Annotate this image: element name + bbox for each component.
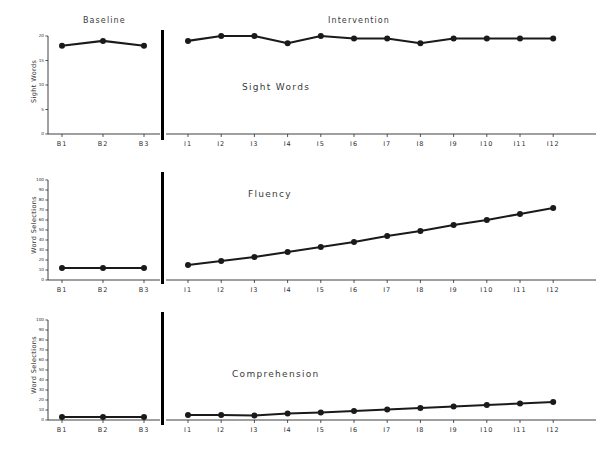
data-point-marker	[251, 413, 257, 419]
y-tick-label: 10	[22, 82, 44, 87]
series-line-intervention	[188, 208, 553, 265]
data-point-marker	[351, 408, 357, 414]
data-point-marker	[141, 265, 147, 271]
data-point-marker	[185, 38, 191, 44]
x-tick-label: I11	[504, 426, 536, 434]
data-point-marker	[285, 411, 291, 417]
y-axis-title: Sight Words	[30, 59, 38, 102]
x-tick-label: I3	[238, 286, 270, 294]
data-point-marker	[417, 405, 423, 411]
data-point-marker	[484, 217, 490, 223]
data-point-marker	[100, 38, 106, 44]
x-tick-label: B3	[128, 140, 160, 148]
chart-canvas	[0, 0, 606, 456]
x-tick-label: I7	[371, 286, 403, 294]
data-point-marker	[100, 265, 106, 271]
x-tick-label: I7	[371, 426, 403, 434]
data-point-marker	[100, 414, 106, 420]
x-tick-label: I12	[537, 426, 569, 434]
chart-canvas	[0, 0, 606, 456]
x-tick-label: I5	[305, 140, 337, 148]
y-tick-label: 10	[22, 267, 44, 272]
data-point-marker	[550, 205, 556, 211]
x-tick-label: I12	[537, 286, 569, 294]
x-tick-label: B3	[128, 286, 160, 294]
y-tick-label: 100	[22, 177, 44, 182]
x-tick-label: I10	[471, 426, 503, 434]
x-tick-label: I12	[537, 140, 569, 148]
phase-divider-line-2	[161, 172, 164, 284]
x-tick-label: I11	[504, 140, 536, 148]
x-tick-label: B1	[46, 140, 78, 148]
data-point-marker	[251, 254, 257, 260]
panel-title: Comprehension	[232, 369, 320, 379]
x-tick-label: I5	[305, 286, 337, 294]
y-tick-label: 10	[22, 407, 44, 412]
data-point-marker	[417, 40, 423, 46]
y-tick-label: 50	[22, 367, 44, 372]
data-point-marker	[251, 33, 257, 39]
y-tick-label: 50	[22, 227, 44, 232]
data-point-marker	[218, 258, 224, 264]
x-tick-label: B1	[46, 426, 78, 434]
panel-title: Fluency	[248, 189, 292, 199]
x-tick-label: I10	[471, 140, 503, 148]
data-point-marker	[384, 233, 390, 239]
figure-root: Baseline Intervention 05101520B1B2B3I1I2…	[0, 0, 606, 456]
data-point-marker	[451, 222, 457, 228]
y-tick-label: 20	[22, 397, 44, 402]
x-tick-label: B2	[87, 140, 119, 148]
data-point-marker	[484, 36, 490, 42]
data-point-marker	[517, 211, 523, 217]
data-point-marker	[451, 404, 457, 410]
chart-panel-comprehension: 0102030405060708090100B1B2B3I1I2I3I4I5I6…	[0, 0, 606, 456]
data-point-marker	[318, 244, 324, 250]
y-tick-label: 30	[22, 247, 44, 252]
y-tick-label: 20	[22, 257, 44, 262]
phase-divider-line-3	[161, 312, 164, 425]
phase-label-intervention: Intervention	[328, 16, 390, 25]
x-tick-label: I8	[404, 140, 436, 148]
data-point-marker	[451, 36, 457, 42]
x-tick-label: B2	[87, 286, 119, 294]
y-axis-title: Word Selections	[30, 336, 38, 394]
data-point-marker	[218, 33, 224, 39]
data-point-marker	[59, 414, 65, 420]
phase-label-baseline: Baseline	[83, 16, 126, 25]
x-tick-label: I6	[338, 286, 370, 294]
data-point-marker	[141, 43, 147, 49]
x-tick-label: I8	[404, 286, 436, 294]
data-point-marker	[285, 40, 291, 46]
y-tick-label: 70	[22, 347, 44, 352]
x-tick-label: I2	[205, 426, 237, 434]
y-tick-label: 20	[22, 33, 44, 38]
data-point-marker	[318, 33, 324, 39]
y-tick-label: 40	[22, 237, 44, 242]
data-point-marker	[318, 410, 324, 416]
y-tick-label: 0	[22, 277, 44, 282]
x-tick-label: I8	[404, 426, 436, 434]
data-point-marker	[550, 399, 556, 405]
data-point-marker	[517, 401, 523, 407]
x-tick-label: I6	[338, 140, 370, 148]
y-tick-label: 60	[22, 217, 44, 222]
y-tick-label: 5	[22, 107, 44, 112]
x-tick-label: I2	[205, 286, 237, 294]
data-point-marker	[285, 249, 291, 255]
y-tick-label: 80	[22, 337, 44, 342]
data-point-marker	[351, 239, 357, 245]
data-point-marker	[185, 412, 191, 418]
data-point-marker	[550, 36, 556, 42]
x-tick-label: I2	[205, 140, 237, 148]
x-tick-label: I6	[338, 426, 370, 434]
series-line-intervention	[188, 36, 553, 43]
y-axis-title: Word Selections	[30, 196, 38, 254]
x-tick-label: I1	[172, 286, 204, 294]
x-tick-label: I4	[272, 286, 304, 294]
y-tick-label: 70	[22, 207, 44, 212]
y-tick-label: 30	[22, 387, 44, 392]
chart-panel-sight-words: 05101520B1B2B3I1I2I3I4I5I6I7I8I9I10I11I1…	[0, 0, 606, 456]
series-line-baseline	[62, 41, 144, 46]
y-tick-label: 0	[22, 417, 44, 422]
data-point-marker	[484, 402, 490, 408]
